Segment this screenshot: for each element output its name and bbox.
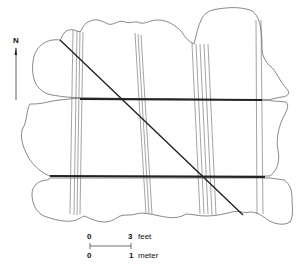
upper-rope <box>80 99 262 100</box>
scale-bottom-zero: 0 <box>87 251 91 260</box>
bottom-row-outline <box>32 178 293 224</box>
top-row-outline <box>33 8 289 100</box>
north-arrow-icon <box>15 47 18 100</box>
scale-bottom-unit: meter <box>138 251 158 260</box>
plan-drawing: N 0 3 feet 0 1 meter <box>0 0 302 268</box>
scale-bottom-one: 1 <box>129 251 133 260</box>
middle-row-outline <box>21 98 287 176</box>
diagonal-rope <box>60 40 243 215</box>
scale-bar <box>90 243 131 249</box>
scale-top-zero: 0 <box>87 232 91 241</box>
lower-rope <box>50 176 265 177</box>
scale-top-unit: feet <box>138 232 151 241</box>
north-label: N <box>13 36 19 45</box>
plank-seams <box>70 20 263 215</box>
plan-svg <box>0 0 302 268</box>
scale-top-three: 3 <box>128 232 132 241</box>
